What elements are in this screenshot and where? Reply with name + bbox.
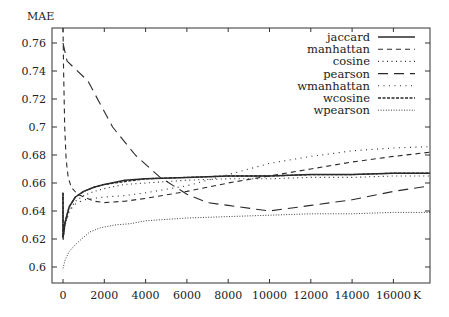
series-line-jaccard	[63, 173, 430, 237]
y-tick-label: 0.62	[22, 233, 47, 246]
legend-label: wpearson	[313, 103, 370, 117]
y-axis-label: MAE	[27, 10, 54, 23]
y-tick-label: 0.6	[29, 261, 47, 274]
y-tick-label: 0.7	[29, 121, 47, 134]
x-tick-label: 14000	[335, 289, 370, 302]
legend: jaccardmanhattancosinepearsonwmanhattanw…	[297, 30, 415, 117]
x-tick-label: 16000	[376, 289, 411, 302]
series-line-wpearson	[63, 212, 430, 268]
plot-frame	[52, 28, 430, 283]
mae-vs-k-chart: 02000400060008000100001200014000160000.6…	[0, 0, 449, 317]
y-tick-label: 0.74	[22, 65, 47, 78]
x-tick-label: 6000	[173, 289, 201, 302]
legend-item-wpearson: wpearson	[313, 103, 415, 117]
x-tick-label: 12000	[293, 289, 328, 302]
y-tick-label: 0.64	[22, 205, 47, 218]
series-layer	[63, 28, 430, 269]
x-tick-label: 0	[60, 289, 67, 302]
y-tick-label: 0.66	[22, 177, 47, 190]
x-tick-label: 8000	[214, 289, 242, 302]
y-tick-label: 0.72	[22, 93, 47, 106]
y-tick-label: 0.68	[22, 149, 47, 162]
x-tick-label: 4000	[132, 289, 160, 302]
series-line-wmanhattan	[63, 147, 430, 241]
x-tick-label: 10000	[252, 289, 287, 302]
series-line-wcosine	[63, 173, 430, 237]
x-tick-label: 2000	[90, 289, 118, 302]
y-tick-label: 0.76	[22, 37, 47, 50]
x-axis-label: K	[413, 289, 422, 302]
